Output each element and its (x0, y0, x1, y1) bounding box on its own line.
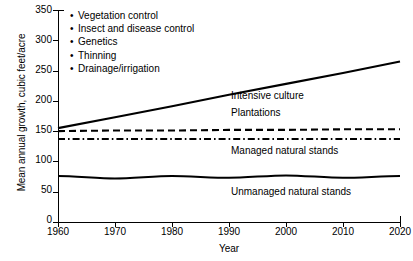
data-lines (58, 62, 400, 179)
x-tick-marks (59, 222, 401, 227)
line-unmanaged-natural-stands (58, 175, 400, 178)
plot-svg (0, 0, 413, 261)
y-tick-marks (53, 11, 58, 223)
chart-canvas: Mean annual growth, cubic feet/acre 350 … (0, 0, 413, 261)
axis-frame (58, 10, 400, 222)
line-plantations (58, 129, 400, 131)
line-intensive-culture (58, 62, 400, 129)
